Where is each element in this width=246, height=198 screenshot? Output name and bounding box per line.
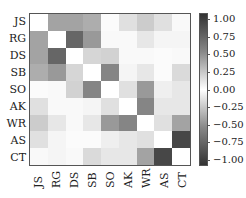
heatmap-cell <box>30 115 48 132</box>
heatmap-cell <box>30 148 48 165</box>
heatmap-cell <box>101 115 119 132</box>
heatmap-cell <box>172 81 190 98</box>
x-tick-label: CT <box>176 172 189 188</box>
colorbar-tick-label: 1.00 <box>213 14 235 24</box>
y-tick-label: SO <box>9 84 26 95</box>
heatmap-cell <box>66 115 84 132</box>
heatmap-cell <box>137 81 155 98</box>
y-tick-label: CT <box>10 152 26 163</box>
heatmap-cell <box>172 98 190 115</box>
heatmap-cell <box>66 131 84 148</box>
heatmap-cell <box>101 64 119 81</box>
heatmap-cell <box>83 148 101 165</box>
heatmap-cell <box>154 131 172 148</box>
heatmap-cell <box>83 48 101 65</box>
x-tick-label: RG <box>50 171 63 188</box>
heatmap-cell <box>83 64 101 81</box>
y-tick-label: JS <box>14 16 26 27</box>
colorbar-tick-mark <box>207 125 210 126</box>
y-tick-label: SB <box>10 67 26 78</box>
heatmap-cell <box>172 48 190 65</box>
heatmap-cell <box>66 81 84 98</box>
heatmap-cell <box>101 14 119 31</box>
colorbar-tick-mark <box>207 37 210 38</box>
heatmap-cell <box>172 148 190 165</box>
heatmap-cell <box>48 98 66 115</box>
heatmap-cell <box>172 64 190 81</box>
heatmap-cell <box>137 48 155 65</box>
heatmap-cell <box>172 115 190 132</box>
heatmap-cell <box>137 14 155 31</box>
heatmap-cell <box>48 148 66 165</box>
colorbar-tick-label: 0.75 <box>213 32 235 42</box>
heatmap-cell <box>66 48 84 65</box>
y-tick-label: AS <box>11 135 26 146</box>
heatmap-cell <box>119 31 137 48</box>
heatmap-cell <box>119 131 137 148</box>
heatmap-cell <box>137 115 155 132</box>
heatmap-cell <box>119 98 137 115</box>
colorbar-tick-label: 0.25 <box>213 67 235 77</box>
colorbar-tick-label: −0.25 <box>213 102 244 112</box>
heatmap-cell <box>66 31 84 48</box>
heatmap-cell <box>83 81 101 98</box>
heatmap-cell <box>83 131 101 148</box>
heatmap-cell <box>154 14 172 31</box>
heatmap-cell <box>66 14 84 31</box>
heatmap-cell <box>48 48 66 65</box>
heatmap-cell <box>30 98 48 115</box>
heatmap-cell <box>137 148 155 165</box>
heatmap-cell <box>30 14 48 31</box>
heatmap-cell <box>119 14 137 31</box>
colorbar-tick-label: −0.50 <box>213 120 244 130</box>
colorbar-tick-label: 0.00 <box>213 85 235 95</box>
colorbar-tick-mark <box>207 90 210 91</box>
heatmap-cell <box>119 148 137 165</box>
heatmap-cell <box>154 48 172 65</box>
heatmap-cell <box>83 31 101 48</box>
colorbar-tick-label: 0.50 <box>213 49 235 59</box>
x-tick-label: DS <box>68 172 81 188</box>
heatmap-cell <box>48 81 66 98</box>
heatmap-cell <box>48 64 66 81</box>
heatmap-cell <box>154 31 172 48</box>
colorbar-tick-mark <box>207 142 210 143</box>
heatmap-cell <box>30 131 48 148</box>
colorbar-tick-label: −1.00 <box>213 155 244 165</box>
heatmap-cell <box>83 14 101 31</box>
heatmap-cell <box>119 81 137 98</box>
heatmap-cell <box>119 115 137 132</box>
heatmap-cell <box>66 64 84 81</box>
heatmap-cell <box>101 131 119 148</box>
heatmap-cell <box>66 148 84 165</box>
heatmap-cell <box>48 131 66 148</box>
colorbar-tick-mark <box>207 107 210 108</box>
heatmap-cell <box>119 64 137 81</box>
heatmap-cell <box>172 14 190 31</box>
x-tick-label: WR <box>140 168 153 188</box>
heatmap-cell <box>154 148 172 165</box>
colorbar-tick-mark <box>207 72 210 73</box>
colorbar-tick-mark <box>207 19 210 20</box>
heatmap-grid <box>29 13 191 166</box>
heatmap-cell <box>30 64 48 81</box>
heatmap-cell <box>154 115 172 132</box>
x-tick-label: AS <box>158 173 171 188</box>
heatmap-cell <box>101 148 119 165</box>
heatmap-cell <box>83 98 101 115</box>
heatmap-cell <box>30 48 48 65</box>
colorbar-tick-mark <box>207 160 210 161</box>
heatmap-cell <box>66 98 84 115</box>
heatmap-cell <box>101 98 119 115</box>
colorbar-tick-label: −0.75 <box>213 137 244 147</box>
colorbar-tick-mark <box>207 54 210 55</box>
x-tick-label: SO <box>104 171 117 188</box>
heatmap-cell <box>137 131 155 148</box>
y-tick-label: AK <box>10 101 26 112</box>
heatmap-cell <box>48 31 66 48</box>
heatmap-cell <box>101 31 119 48</box>
heatmap-cell <box>172 31 190 48</box>
heatmap-cell <box>137 98 155 115</box>
heatmap-cell <box>137 31 155 48</box>
heatmap-cell <box>154 98 172 115</box>
